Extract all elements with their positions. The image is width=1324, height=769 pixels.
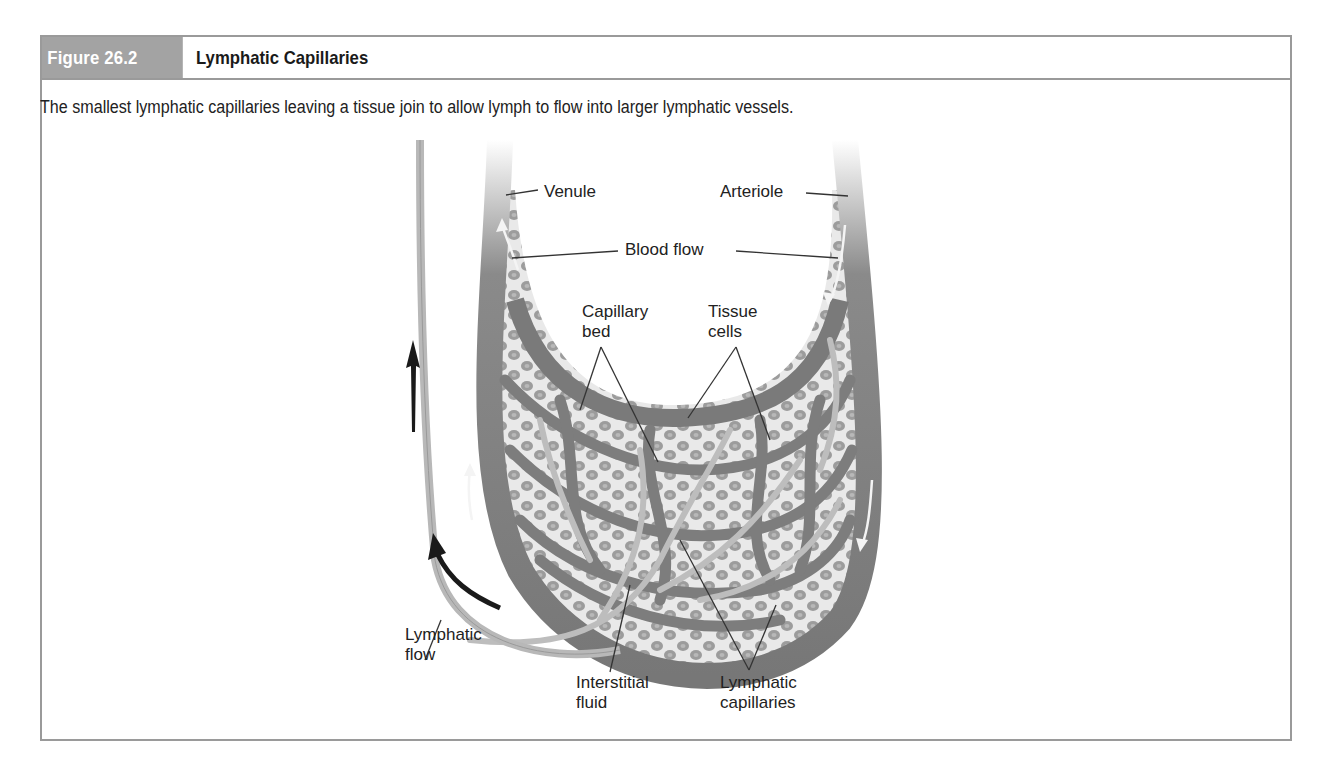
label-tissue-cells: Tissue cells <box>708 302 757 342</box>
label-interstitial-fluid: Interstitial fluid <box>576 673 649 713</box>
lymphatic-capillaries-illustration <box>0 0 1324 769</box>
label-lymphatic-capillaries: Lymphatic capillaries <box>720 673 797 713</box>
lymphatic-flow-arrow-up <box>406 340 420 432</box>
capillary-bed-shape <box>470 140 869 676</box>
label-blood-flow: Blood flow <box>625 240 703 260</box>
label-venule: Venule <box>544 182 596 202</box>
label-arteriole: Arteriole <box>720 182 783 202</box>
label-capillary-bed: Capillary bed <box>582 302 648 342</box>
label-lymphatic-flow: Lymphatic flow <box>405 625 482 665</box>
